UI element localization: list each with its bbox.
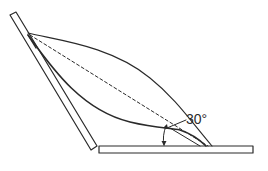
arrow-head-icon (162, 141, 167, 146)
base-plate (99, 146, 253, 153)
angle-label: 30° (186, 112, 207, 126)
upper-curve (28, 33, 212, 146)
diagram-canvas (0, 0, 268, 171)
inclined-plate (10, 12, 97, 150)
chord-line (30, 35, 208, 146)
